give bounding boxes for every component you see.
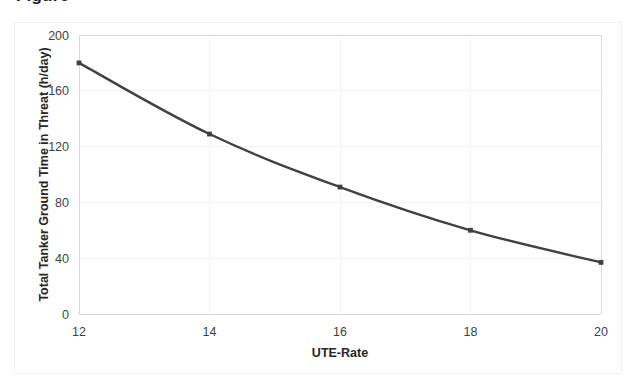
data-point-marker	[468, 228, 473, 233]
y-tick-label: 40	[55, 252, 69, 266]
data-point-marker	[77, 61, 82, 66]
data-point-marker	[207, 132, 212, 137]
data-point-marker	[599, 260, 604, 265]
y-tick-label: 0	[62, 308, 69, 322]
x-tick-label: 18	[464, 325, 478, 339]
x-tick-label: 20	[594, 325, 608, 339]
x-tick-label: 16	[333, 325, 347, 339]
data-point-marker	[338, 185, 343, 190]
x-tick-label: 14	[203, 325, 217, 339]
y-tick-label: 160	[48, 84, 69, 98]
line-chart: 04080120160200 1214161820 UTE-Rate Total…	[0, 0, 634, 387]
y-tick-label: 80	[55, 196, 69, 210]
y-axis-tick-labels: 04080120160200	[48, 29, 69, 322]
gridlines	[79, 35, 601, 314]
y-tick-label: 200	[48, 29, 69, 43]
y-axis-title: Total Tanker Ground Time in Threat (h/da…	[37, 47, 51, 301]
x-axis-title: UTE-Rate	[312, 346, 368, 360]
x-axis-tick-labels: 1214161820	[72, 325, 608, 339]
x-tick-label: 12	[72, 325, 86, 339]
y-tick-label: 120	[48, 140, 69, 154]
